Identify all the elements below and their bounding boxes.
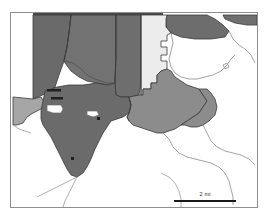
district-north-central [64,15,116,85]
district-north [115,15,141,97]
county-line-east-2 [169,33,235,79]
map-frame: 2 mi [10,12,258,208]
scale-bar: 2 mi [174,191,236,207]
scale-bar-label: 2 mi [174,191,236,198]
feature-marker-a [47,89,61,92]
map-figure: 2 mi [0,0,273,219]
inset-white-notch [47,105,63,113]
district-northeast-upper [166,15,229,39]
county-line-south-2 [203,125,255,165]
scale-bar-line [174,200,236,203]
hydro-line-west-lower [13,125,31,133]
district-far-northeast [223,15,257,25]
feature-marker-b [51,97,63,100]
county-line-east-1 [229,31,255,63]
feature-marker-d [71,157,74,160]
feature-marker-c [97,117,100,120]
hydro-line-southwest [63,177,77,207]
map-canvas [11,13,257,207]
district-west-edge [13,97,45,125]
hydro-line-southwest-branch [37,177,77,197]
